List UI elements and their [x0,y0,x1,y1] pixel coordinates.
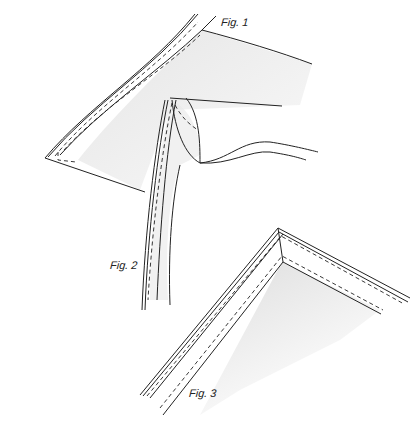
diagram-drawing [0,0,419,432]
figure-1-label: Fig. 1 [221,16,249,28]
figure-3-drawing [140,228,410,415]
sewing-diagram: Fig. 1 Fig. 2 Fig. 3 [0,0,419,432]
figure-2-label: Fig. 2 [110,259,138,271]
figure-3-label: Fig. 3 [189,387,217,399]
